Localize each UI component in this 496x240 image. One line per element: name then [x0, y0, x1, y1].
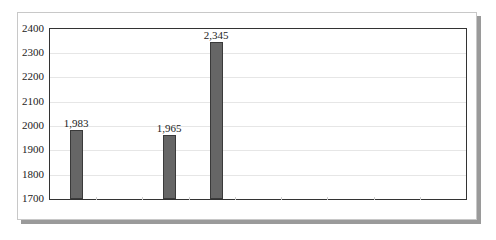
y-tick-label: 2300 [18, 46, 44, 58]
y-tick-label: 1900 [18, 143, 44, 155]
gridline [50, 150, 466, 151]
y-tick-label: 2000 [18, 119, 44, 131]
x-tick [189, 197, 190, 200]
x-tick [235, 197, 236, 200]
gridline [50, 53, 466, 54]
y-tick-label: 2100 [18, 95, 44, 107]
y-tick-label: 2200 [18, 70, 44, 82]
gridline [50, 77, 466, 78]
x-tick [142, 197, 143, 200]
bar-2345 [210, 42, 223, 199]
y-tick-label: 1800 [18, 168, 44, 180]
bar-value-label: 1,965 [149, 122, 189, 134]
x-tick [96, 197, 97, 200]
bar-value-label: 1,983 [56, 117, 96, 129]
gridline [50, 102, 466, 103]
x-tick [281, 197, 282, 200]
bar-1965 [163, 135, 176, 199]
x-tick [327, 197, 328, 200]
gridline [50, 126, 466, 127]
y-tick-label: 2400 [18, 22, 44, 34]
gridline [50, 175, 466, 176]
bar-1983 [70, 130, 83, 199]
x-tick [374, 197, 375, 200]
bar-value-label: 2,345 [196, 29, 236, 41]
y-tick-label: 1700 [18, 192, 44, 204]
plot-area: 1,983 1,965 2,345 [49, 28, 467, 200]
x-tick [420, 197, 421, 200]
